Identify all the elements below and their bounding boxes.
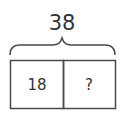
part-label-unknown: ?: [85, 76, 93, 94]
part-label-known: 18: [27, 76, 46, 94]
curly-brace: [10, 38, 115, 55]
tape-diagram: 38 18 ?: [0, 0, 122, 117]
total-label: 38: [49, 11, 76, 35]
